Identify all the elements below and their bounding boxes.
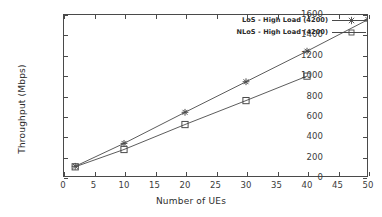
y-axis-title: Throughput (Mbps) [17,29,27,189]
x-axis-tick-label: 35 [271,180,282,190]
x-axis-tick-label: 10 [118,180,129,190]
series-line [75,76,307,167]
y-axis-tick-label: 0 [317,172,323,182]
asterisk-marker [182,109,189,116]
open-square-icon [347,28,356,37]
x-axis-title: Number of UEs [0,196,382,206]
x-axis-tick-label: 50 [362,180,373,190]
x-axis-tick-label: 25 [210,180,221,190]
x-axis-tick-label: 40 [301,180,312,190]
asterisk-marker [243,78,250,85]
series-nlos [72,73,310,170]
legend-label-nlos: NLoS - High Load (4200) [236,28,328,36]
chart-figure: 02004006008001000120014001600 0510152025… [0,0,382,217]
legend-item-los[interactable]: LoS - High Load (4200) [236,15,366,25]
y-axis-tick [64,178,68,179]
x-axis-tick [369,172,370,176]
legend-sample-los [332,16,366,25]
x-axis-tick-label: 5 [91,180,97,190]
y-axis-tick-label: 800 [306,91,323,101]
legend-sample-nlos [332,28,366,37]
y-axis-tick [363,178,367,179]
series-line [75,20,368,167]
legend-item-nlos[interactable]: NLoS - High Load (4200) [236,27,366,37]
y-axis-tick-label: 600 [306,111,323,121]
x-axis-tick-label: 15 [149,180,160,190]
x-axis-tick [369,15,370,19]
x-axis-tick-label: 30 [240,180,251,190]
asterisk-icon [347,16,356,25]
y-axis-tick-label: 1200 [301,50,323,60]
chart-legend: LoS - High Load (4200) NLoS - High Load … [236,15,366,37]
x-axis-tick-label: 20 [179,180,190,190]
legend-label-los: LoS - High Load (4200) [242,16,328,24]
asterisk-marker [121,140,128,147]
y-axis-tick-label: 200 [306,152,323,162]
series-los [72,16,368,170]
x-axis-tick-label: 45 [332,180,343,190]
y-axis-tick-label: 1000 [301,70,323,80]
y-axis-tick-label: 400 [306,131,323,141]
x-axis-tick-label: 0 [60,180,66,190]
